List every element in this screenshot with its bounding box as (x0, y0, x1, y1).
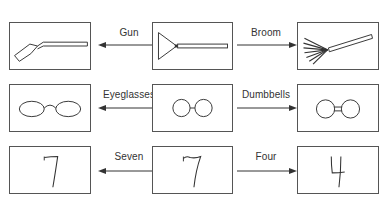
ambiguous-seven-four-drawing-icon (153, 147, 232, 193)
dumbbells-drawing-icon (298, 85, 378, 131)
eyeglasses-box (9, 84, 91, 132)
dumbbells-box (297, 84, 379, 132)
four-drawing-icon (298, 147, 378, 193)
ambiguous-eyeglasses-dumbbells-drawing-icon (153, 85, 232, 131)
gun-label: Gun (98, 27, 160, 38)
gun-box (9, 22, 91, 70)
eyeglasses-label: Eyeglasses (98, 89, 160, 100)
arrow-left-eyeglasses (98, 104, 158, 112)
arrow-right-broom (237, 41, 297, 49)
broom-label: Broom (235, 27, 297, 38)
ambiguous-eyeglasses-dumbbells-box (152, 84, 233, 132)
ambiguous-seven-four-box (152, 146, 233, 194)
gun-drawing-icon (10, 23, 90, 69)
ambiguous-gun-broom-drawing-icon (153, 23, 232, 69)
arrow-right-four (237, 167, 297, 175)
arrow-right-dumbbells (237, 104, 297, 112)
seven-drawing-icon (10, 147, 90, 193)
ambiguous-gun-broom-box (152, 22, 233, 70)
four-label: Four (235, 151, 297, 162)
seven-box (9, 146, 91, 194)
four-box (297, 146, 379, 194)
broom-box (297, 22, 379, 70)
seven-label: Seven (98, 151, 160, 162)
dumbbells-label: Dumbbells (235, 89, 297, 100)
arrow-left-seven (98, 167, 158, 175)
arrow-left-gun (98, 41, 158, 49)
broom-drawing-icon (298, 23, 378, 69)
eyeglasses-drawing-icon (10, 85, 90, 131)
